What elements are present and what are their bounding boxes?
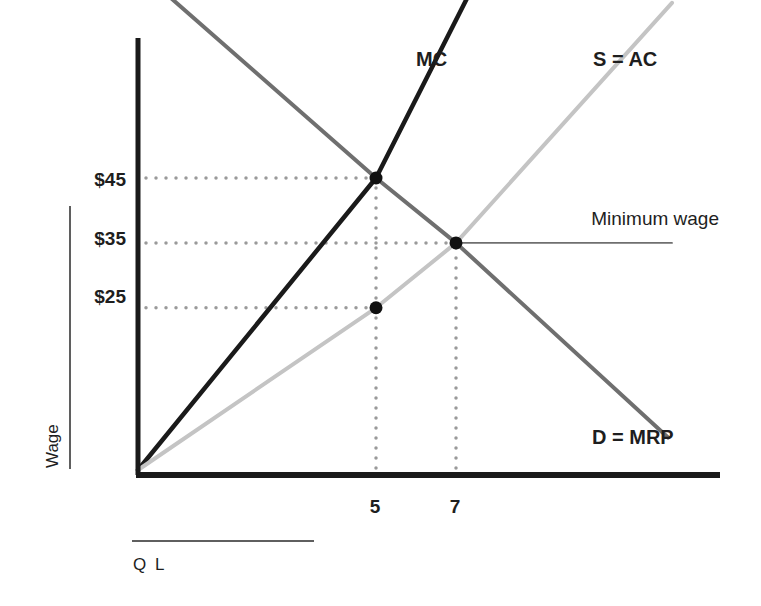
minimum-wage-equilibrium-marker [450, 236, 463, 249]
x-axis-label: Q L [133, 555, 166, 574]
y-tick-label-35: $35 [94, 228, 126, 249]
x-tick-label-5: 5 [370, 496, 381, 517]
demand-curve-label: D = MRP [592, 426, 674, 448]
mc-d-intersection-marker [370, 172, 383, 185]
monopsony-minimum-wage-chart: $45 $35 $25 5 7 MC S = AC Minimum wage D… [0, 0, 761, 606]
supply-ac-curve [138, 3, 672, 470]
y-tick-label-45: $45 [94, 169, 126, 190]
x-tick-label-7: 7 [450, 496, 461, 517]
y-tick-label-25: $25 [94, 286, 126, 307]
guide-lines [146, 178, 456, 468]
y-axis-label: Wage [43, 424, 62, 468]
supply-at-q5-marker [370, 301, 383, 314]
mc-curve [138, 0, 468, 470]
curves [138, 0, 672, 470]
minimum-wage-label: Minimum wage [591, 208, 719, 229]
supply-curve-label: S = AC [593, 48, 657, 70]
mc-curve-label: MC [416, 48, 447, 70]
